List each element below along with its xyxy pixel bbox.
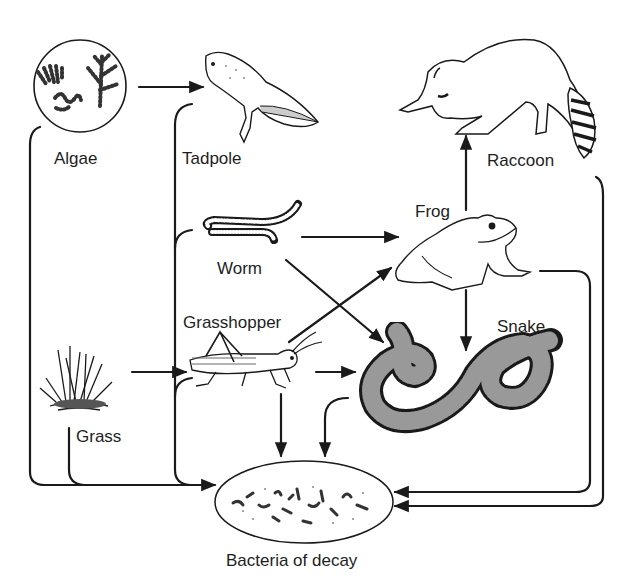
edge-worm-bacteria — [175, 230, 192, 248]
label-frog: Frog — [415, 203, 450, 220]
bacteria-illustration — [213, 459, 395, 545]
algae-illustration — [30, 36, 130, 136]
food-web-diagram: Algae Tadpole Raccoon Worm Frog — [0, 0, 617, 576]
edge-snake-bacteria — [325, 398, 348, 456]
label-grass: Grass — [76, 428, 121, 445]
raccoon-illustration — [398, 30, 608, 165]
label-worm: Worm — [217, 260, 262, 277]
worm-illustration — [202, 198, 306, 248]
label-grasshopper: Grasshopper — [183, 314, 281, 331]
tadpole-illustration — [200, 48, 322, 148]
label-snake: Snake — [497, 318, 545, 335]
snake-illustration — [355, 322, 565, 434]
frog-illustration — [392, 212, 538, 292]
edge-algae-bacteria — [30, 127, 215, 485]
label-bacteria: Bacteria of decay — [226, 552, 357, 569]
label-tadpole: Tadpole — [182, 150, 242, 167]
label-raccoon: Raccoon — [487, 152, 554, 169]
grasshopper-illustration — [186, 330, 326, 392]
grass-illustration — [36, 344, 122, 416]
label-algae: Algae — [54, 150, 97, 167]
